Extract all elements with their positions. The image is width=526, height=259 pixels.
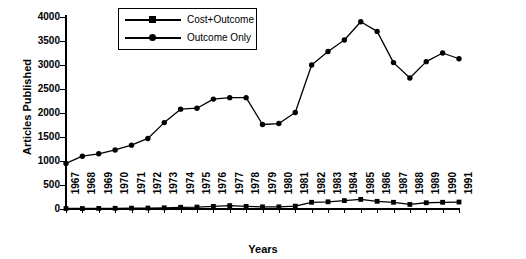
x-tick-mark — [459, 209, 460, 213]
y-tick-mark — [60, 113, 65, 114]
data-point — [391, 60, 396, 65]
y-tick-label: 2500 — [26, 84, 60, 93]
chart-figure: Articles Published 050010001500200025003… — [0, 0, 526, 259]
data-point — [325, 49, 330, 54]
x-tick-label: 1990 — [447, 172, 458, 212]
x-tick-label: 1982 — [316, 172, 327, 212]
x-tick-label: 1971 — [136, 172, 147, 212]
y-axis-tick-labels: 05001000150020002500300035004000 — [24, 0, 60, 259]
x-tick-label: 1991 — [463, 172, 474, 212]
y-tick-label: 2000 — [26, 108, 60, 117]
legend-label: Cost+Outcome — [187, 13, 254, 27]
data-point — [358, 19, 363, 24]
data-point — [374, 29, 379, 34]
data-point — [456, 56, 461, 61]
data-point — [211, 96, 216, 101]
data-point — [178, 106, 183, 111]
data-point — [276, 121, 281, 126]
y-tick-label: 500 — [26, 180, 60, 189]
x-axis-tick-labels: 1967196819691970197119721973197419751976… — [66, 212, 459, 244]
x-tick-label: 1981 — [299, 172, 310, 212]
legend-item-1: Cost+Outcome — [125, 13, 253, 27]
data-point — [358, 197, 363, 202]
x-tick-label: 1979 — [267, 172, 278, 212]
y-tick-label: 1000 — [26, 156, 60, 165]
x-tick-label: 1988 — [414, 172, 425, 212]
x-tick-label: 1989 — [430, 172, 441, 212]
data-point — [194, 106, 199, 111]
y-tick-mark — [60, 89, 65, 90]
y-tick-label: 3500 — [26, 36, 60, 45]
legend-item-2: Outcome Only — [125, 31, 253, 45]
legend-circle-marker-icon — [149, 34, 156, 41]
data-point — [129, 142, 134, 147]
data-point — [342, 37, 347, 42]
x-tick-label: 1977 — [234, 172, 245, 212]
chart-legend: Cost+OutcomeOutcome Only — [118, 8, 257, 50]
data-point — [227, 95, 232, 100]
data-point — [424, 59, 429, 64]
x-tick-label: 1983 — [332, 172, 343, 212]
data-point — [162, 120, 167, 125]
data-point — [407, 75, 412, 80]
y-tick-mark — [60, 17, 65, 18]
y-tick-label: 0 — [26, 204, 60, 213]
legend-label: Outcome Only — [187, 31, 251, 45]
x-tick-label: 1987 — [398, 172, 409, 212]
x-tick-label: 1984 — [348, 172, 359, 212]
data-point — [112, 147, 117, 152]
x-axis-title: Years — [0, 243, 526, 255]
x-tick-label: 1976 — [217, 172, 228, 212]
data-point — [145, 136, 150, 141]
x-tick-label: 1973 — [168, 172, 179, 212]
data-point — [293, 110, 298, 115]
y-tick-label: 1500 — [26, 132, 60, 141]
data-point — [440, 50, 445, 55]
data-point — [80, 154, 85, 159]
data-point — [96, 151, 101, 156]
x-tick-label: 1975 — [201, 172, 212, 212]
x-tick-label: 1974 — [185, 172, 196, 212]
legend-square-marker-icon — [149, 16, 156, 23]
x-tick-label: 1967 — [70, 172, 81, 212]
y-tick-label: 4000 — [26, 12, 60, 21]
data-point — [260, 122, 265, 127]
data-point — [243, 95, 248, 100]
data-point — [63, 161, 68, 166]
y-tick-mark — [60, 185, 65, 186]
y-tick-mark — [60, 41, 65, 42]
x-tick-label: 1980 — [283, 172, 294, 212]
data-point — [227, 203, 232, 208]
data-point — [309, 62, 314, 67]
x-tick-label: 1986 — [381, 172, 392, 212]
x-tick-label: 1970 — [119, 172, 130, 212]
x-tick-label: 1978 — [250, 172, 261, 212]
y-tick-label: 3000 — [26, 60, 60, 69]
x-tick-label: 1968 — [86, 172, 97, 212]
y-tick-mark — [60, 65, 65, 66]
x-tick-label: 1985 — [365, 172, 376, 212]
x-tick-label: 1969 — [103, 172, 114, 212]
y-tick-mark — [60, 137, 65, 138]
x-tick-label: 1972 — [152, 172, 163, 212]
